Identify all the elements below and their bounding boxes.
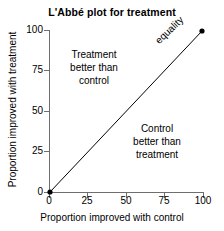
y-axis-ticklabel-100: 100 bbox=[26, 25, 43, 35]
y-axis-ticklabels: 100 75 50 25 0 bbox=[16, 30, 43, 193]
annotation-control-better: Control better than treatment bbox=[115, 122, 199, 161]
chart-title: L'Abbé plot for treatment bbox=[0, 6, 224, 18]
annotation-treatment-better: Treatment better than control bbox=[55, 48, 133, 87]
y-axis-ticklabel-25: 25 bbox=[32, 146, 43, 156]
x-axis-ticklabels: 0 25 50 75 100 bbox=[49, 196, 204, 208]
annotation-control-better-line-2: better than bbox=[115, 135, 199, 148]
data-point-origin bbox=[47, 189, 52, 194]
x-axis-ticklabel-75: 75 bbox=[144, 196, 184, 206]
x-axis-title: Proportion improved with control bbox=[0, 212, 224, 223]
annotation-treatment-better-line-3: control bbox=[55, 74, 133, 87]
y-axis-title: Proportion improved with treatment bbox=[7, 28, 18, 191]
y-axis-ticklabel-50: 50 bbox=[32, 106, 43, 116]
annotation-treatment-better-line-1: Treatment bbox=[55, 48, 133, 61]
annotation-control-better-line-3: treatment bbox=[115, 148, 199, 161]
x-axis-ticklabel-0: 0 bbox=[29, 196, 69, 206]
data-point-max bbox=[199, 28, 204, 33]
plot-area: equality Treatment better than control C… bbox=[49, 30, 203, 192]
y-axis-ticklabel-75: 75 bbox=[32, 65, 43, 75]
x-axis-ticklabel-25: 25 bbox=[67, 196, 107, 206]
labbe-plot-figure: L'Abbé plot for treatment equality Treat… bbox=[0, 0, 224, 231]
annotation-control-better-line-1: Control bbox=[115, 122, 199, 135]
x-axis-ticklabel-100: 100 bbox=[183, 196, 223, 206]
x-axis-ticklabel-50: 50 bbox=[106, 196, 146, 206]
annotation-treatment-better-line-2: better than bbox=[55, 61, 133, 74]
